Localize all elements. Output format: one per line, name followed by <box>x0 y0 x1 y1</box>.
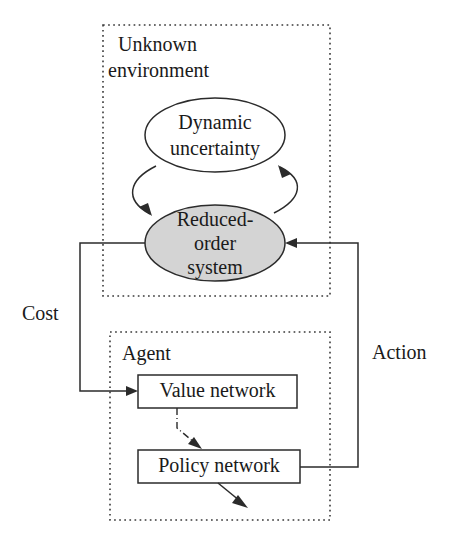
dynamic-uncertainty-label-line2: uncertainty <box>170 137 260 160</box>
edge-action-label: Action <box>372 341 426 363</box>
edge-system-to-uncertainty-arrowhead <box>278 165 291 178</box>
edge-cost-arrowhead <box>126 386 138 396</box>
dynamic-uncertainty-label-line1: Dynamic <box>178 111 251 134</box>
reduced-order-system-label-line3: system <box>187 256 243 279</box>
edge-action-arrowhead <box>285 238 297 248</box>
rl-environment-agent-diagram: Unknown environment Dynamic uncertainty … <box>0 0 455 544</box>
environment-group-title-line1: Unknown <box>118 33 197 55</box>
diagram-canvas: Unknown environment Dynamic uncertainty … <box>0 0 455 544</box>
edge-cost-path <box>80 243 145 391</box>
edge-value-to-policy <box>177 408 195 443</box>
value-network-label: Value network <box>159 379 275 401</box>
agent-group-title: Agent <box>122 342 171 365</box>
reduced-order-system-label-line2: order <box>194 232 237 254</box>
dynamic-uncertainty-ellipse[interactable] <box>145 98 285 172</box>
reduced-order-system-label-line1: Reduced- <box>177 208 254 230</box>
edge-value-to-policy-arrowhead <box>188 437 202 449</box>
environment-group-title-line2: environment <box>108 59 210 81</box>
edge-action-path <box>294 243 358 467</box>
edge-cost-label: Cost <box>22 302 59 324</box>
policy-network-label: Policy network <box>158 454 280 477</box>
edge-uncertainty-to-system-arrowhead <box>139 203 152 216</box>
